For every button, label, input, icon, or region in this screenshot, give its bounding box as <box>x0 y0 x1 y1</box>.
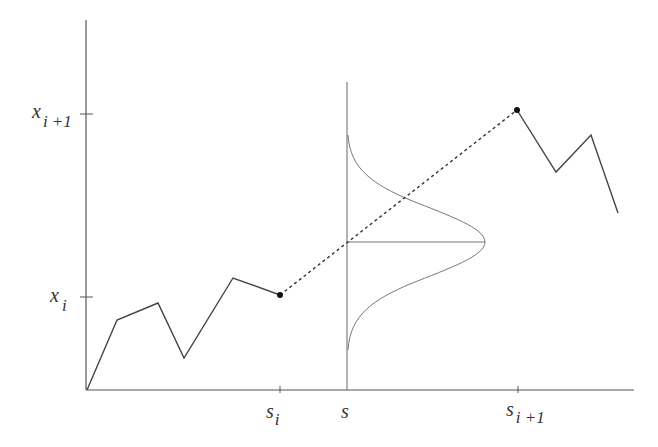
endpoint-dot-left <box>277 292 283 298</box>
sample-path-left <box>87 278 280 390</box>
label-s-i-plus-1: si +1 <box>506 398 545 427</box>
label-s-i: si <box>266 400 280 429</box>
label-x-i: xi <box>49 284 67 315</box>
label-x-i-plus-1: xi +1 <box>31 100 72 131</box>
endpoint-dot-right <box>514 107 520 113</box>
dashed-bridge <box>280 110 517 295</box>
label-s: s <box>341 400 349 422</box>
diagram-canvas: xi +1 xi si s si +1 <box>0 0 658 447</box>
sample-path-right <box>517 110 618 213</box>
